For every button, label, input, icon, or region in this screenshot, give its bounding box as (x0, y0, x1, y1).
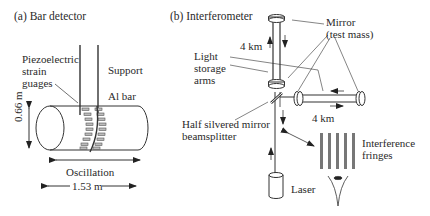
light-storage-label: Light storage arms (194, 50, 226, 86)
al-bar-label: Al bar (108, 90, 136, 102)
strain-gauges-label: Piezoelectric strain guages (22, 53, 79, 89)
height-label: 0.66 m (12, 91, 24, 122)
mirror-label: Mirror (test mass) (326, 16, 373, 40)
horizontal-arm-length: 4 km (312, 112, 334, 124)
length-label: 1.53 m (72, 180, 103, 192)
panel-a-heading: (a) Bar detector (14, 10, 86, 22)
fringes-label: Interference fringes (362, 137, 415, 161)
oscillation-label: Oscillation (66, 166, 114, 178)
bar-end-left (36, 106, 64, 150)
laser-label: Laser (291, 183, 315, 195)
vertical-arm-length: 4 km (240, 40, 262, 52)
interference-fringes (320, 133, 355, 169)
beamsplitter-label: Half silvered mirror beamsplitter (182, 118, 270, 142)
support-label: Support (108, 64, 143, 76)
eye-icon (328, 176, 348, 206)
panel-b-heading: (b) Interferometer (170, 10, 253, 22)
